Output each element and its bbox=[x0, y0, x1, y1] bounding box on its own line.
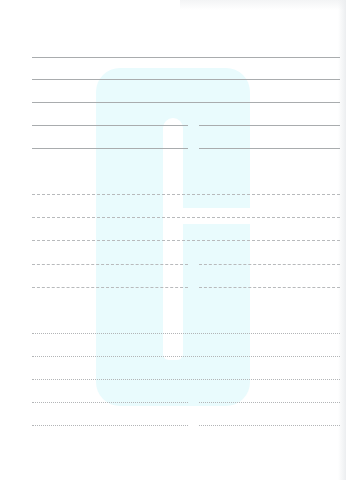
writing-line-dashed bbox=[32, 194, 340, 195]
writing-line-solid bbox=[32, 102, 340, 103]
writing-line-dashed bbox=[32, 240, 340, 241]
writing-line-solid-left bbox=[32, 148, 188, 149]
writing-line-dashed bbox=[32, 217, 340, 218]
writing-line-dotted bbox=[32, 356, 340, 357]
writing-line-solid-left bbox=[32, 125, 188, 126]
writing-line-dashed-left bbox=[32, 287, 188, 288]
writing-line-dotted bbox=[32, 379, 340, 380]
writing-line-dotted-right bbox=[199, 402, 340, 403]
writing-line-dotted-left bbox=[32, 425, 188, 426]
writing-line-solid-right bbox=[199, 125, 340, 126]
writing-line-solid bbox=[32, 79, 340, 80]
watermark-slot bbox=[163, 118, 183, 360]
writing-line-solid-right bbox=[199, 148, 340, 149]
watermark-notch bbox=[183, 208, 250, 224]
writing-line-dotted bbox=[32, 333, 340, 334]
writing-line-dashed-left bbox=[32, 264, 188, 265]
writing-line-dotted-right bbox=[199, 425, 340, 426]
scan-shadow-top bbox=[180, 0, 346, 10]
writing-line-solid bbox=[32, 57, 340, 58]
writing-line-dashed-right bbox=[199, 287, 340, 288]
writing-line-dotted-left bbox=[32, 402, 188, 403]
writing-line-dashed-right bbox=[199, 264, 340, 265]
